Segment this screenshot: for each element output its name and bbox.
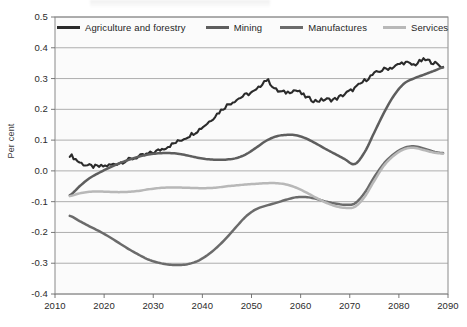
legend-color-swatch xyxy=(280,26,303,29)
legend-item[interactable]: Services xyxy=(383,22,448,33)
plot-area xyxy=(0,0,467,327)
legend-label: Manufactures xyxy=(308,22,367,33)
legend-label: Services xyxy=(411,22,448,33)
legend-label: Mining xyxy=(234,22,263,33)
chart-container: Per cent 0.50.40.30.20.10.0-0.1-0.2-0.3-… xyxy=(0,0,467,327)
y-axis-tick-marks xyxy=(51,17,55,294)
legend-color-swatch xyxy=(206,26,229,29)
legend-label: Agriculture and forestry xyxy=(85,22,186,33)
legend-color-swatch xyxy=(383,26,406,29)
plot-background xyxy=(55,17,448,294)
chart-legend: Agriculture and forestryMiningManufactur… xyxy=(57,22,462,33)
legend-color-swatch xyxy=(57,26,80,29)
x-axis-tick-marks xyxy=(55,294,448,298)
legend-item[interactable]: Agriculture and forestry xyxy=(57,22,186,33)
legend-item[interactable]: Mining xyxy=(206,22,263,33)
legend-item[interactable]: Manufactures xyxy=(280,22,367,33)
